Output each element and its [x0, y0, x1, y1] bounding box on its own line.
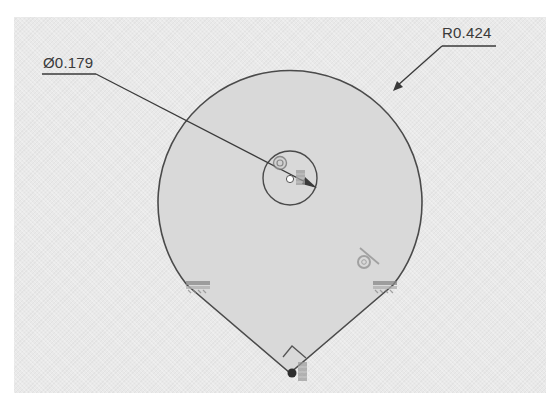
center-point[interactable]: [286, 175, 293, 182]
radius-dimension-label[interactable]: R0.424: [442, 24, 492, 41]
fix-icon[interactable]: [296, 170, 305, 185]
teardrop-profile[interactable]: [158, 70, 422, 373]
fix-icon-vertex[interactable]: [298, 362, 307, 381]
diameter-dimension-label[interactable]: Ø0.179: [43, 54, 93, 71]
coincident-icon[interactable]: [288, 369, 297, 378]
concentric-icon[interactable]: [274, 157, 287, 170]
radius-dimension-leader[interactable]: [393, 46, 496, 91]
